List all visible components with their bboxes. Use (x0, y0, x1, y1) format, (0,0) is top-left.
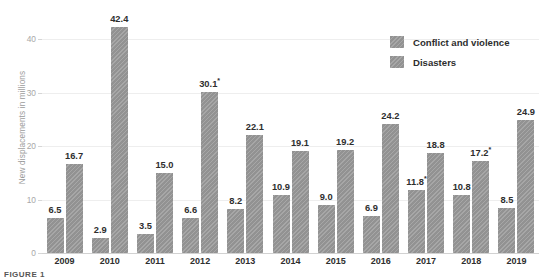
bar-value-label: 24.2 (367, 111, 413, 121)
bar-value-label: 42.4 (96, 14, 142, 24)
bar-conflict-2014[interactable] (273, 195, 290, 253)
bar-disaster-2009[interactable] (66, 164, 83, 253)
bar-disaster-2013[interactable] (246, 135, 263, 253)
y-axis-tick-mark (38, 253, 42, 254)
bar-value-label: 22.1 (232, 122, 278, 132)
bar-value-label: 19.1 (277, 138, 323, 148)
bar-value-label: 30.1* (187, 77, 233, 89)
bar-group: 3.515.0 (137, 18, 173, 253)
y-axis-title: New displacements in millions (18, 28, 27, 228)
bar-group: 2.942.4 (92, 18, 128, 253)
legend: Conflict and violence Disasters (390, 36, 510, 76)
legend-label: Conflict and violence (413, 37, 510, 48)
gridline (42, 253, 539, 254)
legend-item-disasters[interactable]: Disasters (390, 56, 510, 68)
y-axis-tick-label: 40 (27, 34, 36, 44)
bar-conflict-2013[interactable] (227, 209, 244, 253)
legend-item-conflict-and-violence[interactable]: Conflict and violence (390, 36, 510, 48)
bar-group: 8.222.1 (227, 18, 263, 253)
bar-disaster-2018[interactable] (472, 161, 489, 253)
asterisk-marker: * (488, 146, 491, 153)
bar-conflict-2018[interactable] (453, 195, 470, 253)
bar-value-label: 17.2* (458, 146, 504, 158)
y-axis-tick-label: 20 (27, 141, 36, 151)
bar-disaster-2016[interactable] (382, 124, 399, 253)
bar-value-label: 15.0 (141, 160, 187, 170)
legend-swatch-icon (390, 56, 404, 68)
bar-conflict-2019[interactable] (498, 208, 515, 253)
bar-group: 6.516.7 (47, 18, 83, 253)
asterisk-marker: * (217, 77, 220, 84)
y-axis-tick-label: 10 (27, 195, 36, 205)
bar-group: 10.919.1 (273, 18, 309, 253)
bar-group: 6.630.1* (182, 18, 218, 253)
bar-group: 9.019.2 (318, 18, 354, 253)
bar-conflict-2015[interactable] (318, 205, 335, 253)
bar-conflict-2016[interactable] (363, 216, 380, 253)
bar-disaster-2017[interactable] (427, 153, 444, 253)
bar-conflict-2009[interactable] (47, 218, 64, 253)
bar-value-label: 24.9 (503, 107, 543, 117)
bar-conflict-2012[interactable] (182, 218, 199, 253)
bar-conflict-2011[interactable] (137, 234, 154, 253)
bar-conflict-2010[interactable] (92, 238, 109, 253)
x-axis-tick-label-2019: 2019 (486, 256, 543, 266)
bar-chart: New displacements in millions 010203040 … (0, 0, 543, 279)
legend-swatch-icon (390, 36, 404, 48)
bar-disaster-2015[interactable] (337, 150, 354, 253)
legend-label: Disasters (413, 57, 456, 68)
bar-conflict-2017[interactable] (408, 190, 425, 253)
bar-value-label: 16.7 (51, 151, 97, 161)
bar-disaster-2014[interactable] (292, 151, 309, 253)
bar-disaster-2019[interactable] (517, 120, 534, 253)
bar-value-label: 18.8 (413, 140, 459, 150)
bar-value-label: 19.2 (322, 137, 368, 147)
bar-disaster-2012[interactable] (201, 92, 218, 253)
y-axis-tick-label: 30 (27, 88, 36, 98)
bar-disaster-2010[interactable] (111, 27, 128, 253)
footer-caption-fragment: FIGURE 1 (4, 270, 45, 277)
